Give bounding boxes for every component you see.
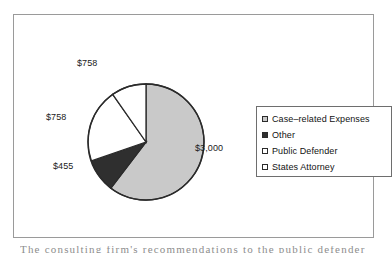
legend-item-label: Other [272,130,295,140]
pie-graphic [87,83,205,201]
legend-item-case-related-expenses[interactable]: Case–related Expenses [262,111,391,126]
chart-legend: Case–related Expenses Other Public Defen… [256,106,392,177]
legend-swatch-icon [262,116,268,122]
legend-item-label: States Attorney [272,162,335,172]
figure-caption-clipped: The consulting firm's recommendations to… [20,246,372,253]
figure-caption-text: The consulting firm's recommendations to… [20,246,366,253]
legend-item-label: Case–related Expenses [272,114,370,124]
legend-item-states-attorney[interactable]: States Attorney [262,159,391,174]
chart-plot-frame: Case–related Expenses Other Public Defen… [13,14,374,238]
legend-item-public-defender[interactable]: Public Defender [262,143,391,158]
legend-swatch-icon [262,132,268,138]
legend-item-other[interactable]: Other [262,127,391,142]
legend-swatch-icon [262,148,268,154]
legend-item-label: Public Defender [272,146,338,156]
legend-swatch-icon [262,164,268,170]
pie-svg [87,83,205,201]
